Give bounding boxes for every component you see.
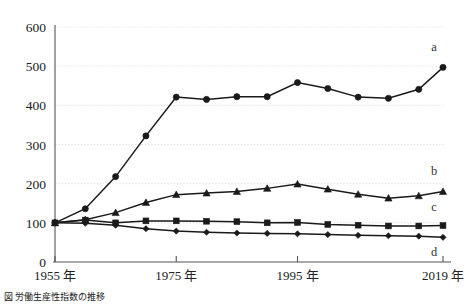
series-label-b: b [431,164,437,178]
series-d-marker [325,231,331,237]
series-a-marker [113,174,119,180]
series-a-marker [294,80,300,86]
series-d-marker [440,234,446,240]
series-a-marker [173,94,179,100]
y-axis-tick-label: 100 [26,216,47,231]
series-line-b [55,184,443,223]
series-c-marker [386,223,392,229]
series-c-marker [355,222,361,228]
series-c-marker [264,220,270,226]
figure-caption: 図 労働生産性指数の推移 [4,286,304,304]
y-axis-tick-label: 400 [26,98,47,113]
x-axis-tick-label: 1995 年 [276,268,318,283]
series-d-marker [355,232,361,238]
series-a-marker [82,206,88,212]
y-axis-tick-label: 300 [26,138,47,153]
series-d-marker [416,233,422,239]
series-d-marker [173,228,179,234]
x-axis-tick-label: 1975 年 [155,268,197,283]
y-axis-tick-label: 500 [26,59,47,74]
series-label-a: a [431,40,437,54]
series-a-marker [385,95,391,101]
series-a-marker [234,94,240,100]
x-axis-tick-label: 1955 年 [34,268,76,283]
series-a-marker [264,94,270,100]
series-c-marker [325,222,331,228]
x-axis-tick-label: 2019 年 [422,268,464,283]
series-c-marker [440,223,446,229]
series-c-marker [295,220,301,226]
series-a-marker [440,64,446,70]
series-b-marker [439,188,446,195]
series-c-marker [143,218,149,224]
figure-caption-text: 図 労働生産性指数の推移 [4,292,105,302]
series-c-marker [234,219,240,225]
series-d-marker [264,230,270,236]
series-label-c: c [431,200,437,214]
series-d-marker [234,230,240,236]
y-axis-tick-label: 200 [26,177,47,192]
series-label-d: d [431,245,438,259]
series-c-marker [416,223,422,229]
y-axis-tick-label: 600 [26,20,47,35]
series-line-a [55,67,443,222]
series-a-marker [416,86,422,92]
series-a-marker [355,94,361,100]
series-d-marker [294,231,300,237]
series-a-marker [203,96,209,102]
series-c-marker [204,218,210,224]
series-a-marker [325,85,331,91]
series-d-marker [385,233,391,239]
series-d-marker [143,226,149,232]
series-a-marker [143,133,149,139]
series-d-marker [203,229,209,235]
series-c-marker [173,218,179,224]
